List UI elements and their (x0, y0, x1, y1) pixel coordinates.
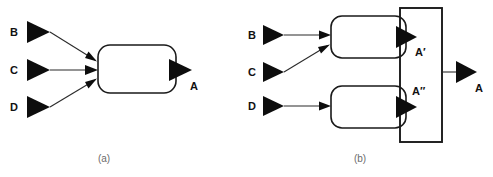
panel-a-process-block (98, 45, 176, 93)
panel-a-connector-d (50, 79, 97, 108)
panel-b-connector-b (284, 31, 331, 40)
panel-b-caption: (b) (354, 153, 366, 164)
panel-a-caption: (a) (98, 153, 110, 164)
panel-b-input-c-label: C (248, 66, 256, 78)
filled-triangle-right-icon (263, 96, 284, 116)
panel-b-output-a-prime-label: A′ (415, 46, 426, 58)
filled-triangle-right-icon (169, 59, 192, 81)
filled-triangle-right-icon (27, 21, 50, 43)
panel-b-input-c: C (248, 62, 284, 82)
filled-triangle-right-icon (263, 62, 284, 82)
panel-b-input-d-label: D (248, 100, 256, 112)
panel-b-output-a-label: A (475, 82, 483, 94)
panel-a-input-c: C (10, 59, 50, 81)
panel-a-input-b-label: B (10, 26, 18, 38)
panel-a-input-d-label: D (10, 101, 18, 113)
arrowhead-icon (85, 65, 98, 75)
panel-a-output-a-label: A (190, 80, 198, 92)
panel-b-input-b-label: B (248, 29, 256, 41)
arrowhead-icon (85, 79, 97, 89)
filled-triangle-right-icon (27, 59, 50, 81)
panel-a-input-b: B (10, 21, 50, 43)
panel-b-output-a-dprime-label: A″ (412, 85, 426, 97)
arrowhead-icon (318, 45, 330, 54)
panel-b-process-upper (331, 16, 406, 58)
panel-b-connector-c (284, 45, 330, 73)
panel-b-process-lower (331, 86, 406, 128)
arrowhead-icon (319, 31, 331, 40)
panel-a-connector-b (50, 32, 97, 62)
panel-a: B C D (10, 21, 198, 164)
panel-a-input-d: D (10, 96, 50, 118)
panel-b: B C D (248, 8, 483, 164)
panel-b-output-a: A (442, 61, 483, 94)
figure-canvas: B C D (0, 0, 493, 177)
figure-container: B C D (0, 0, 493, 177)
arrowhead-icon (319, 102, 331, 111)
filled-triangle-right-icon (27, 96, 50, 118)
arrowhead-icon (85, 52, 97, 62)
panel-b-input-b: B (248, 25, 284, 45)
panel-a-input-c-label: C (10, 64, 18, 76)
filled-triangle-right-icon (263, 25, 284, 45)
filled-triangle-right-icon (456, 61, 477, 83)
panel-b-connector-d (284, 102, 331, 111)
panel-b-input-d: D (248, 96, 284, 116)
panel-a-connector-c (50, 65, 98, 75)
